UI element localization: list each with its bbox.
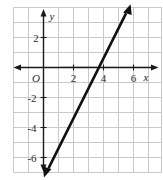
y-tick-label-neg6: -6 [27, 152, 37, 164]
y-tick-label-neg4: -4 [27, 122, 37, 134]
x-tick-label-4: 4 [101, 72, 107, 84]
graph-figure: x y O 2 4 6 2 -2 -4 -6 [0, 0, 163, 180]
coordinate-plane-svg: x y O 2 4 6 2 -2 -4 -6 [0, 0, 163, 180]
origin-label: O [32, 72, 40, 84]
figure-background [0, 0, 163, 180]
x-tick-label-6: 6 [131, 72, 137, 84]
y-tick-label-2: 2 [33, 32, 39, 44]
y-axis-label: y [49, 10, 55, 22]
y-tick-label-neg2: -2 [27, 92, 36, 104]
x-axis-label: x [143, 71, 149, 83]
x-tick-label-2: 2 [71, 72, 77, 84]
